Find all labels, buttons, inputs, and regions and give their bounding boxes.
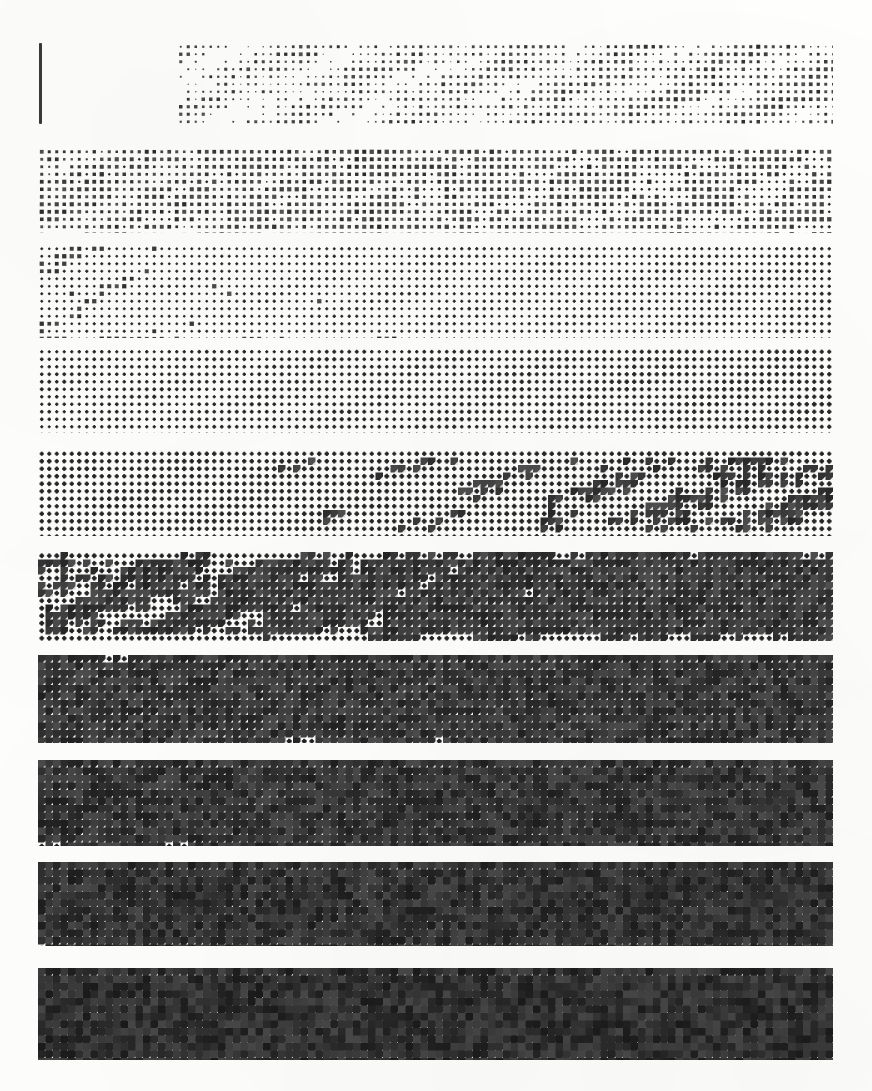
halftone-band-10 [38, 968, 833, 1060]
halftone-band-canvas-6 [38, 552, 833, 641]
halftone-band-canvas-7 [38, 655, 833, 743]
halftone-band-canvas-4 [38, 348, 833, 433]
halftone-band-canvas-5 [38, 450, 833, 536]
halftone-band-canvas-3 [38, 245, 833, 338]
halftone-band-1 [177, 43, 833, 125]
halftone-band-5 [38, 450, 833, 536]
halftone-band-canvas-10 [38, 968, 833, 1060]
halftone-band-4 [38, 348, 833, 433]
halftone-band-7 [38, 655, 833, 743]
halftone-band-canvas-2 [38, 148, 833, 233]
halftone-band-8 [38, 760, 833, 846]
halftone-band-canvas-9 [38, 862, 833, 946]
halftone-band-3 [38, 245, 833, 338]
registration-rule [39, 43, 42, 124]
halftone-band-2 [38, 148, 833, 233]
halftone-band-canvas-8 [38, 760, 833, 846]
halftone-band-9 [38, 862, 833, 946]
halftone-band-6 [38, 552, 833, 641]
test-chart-sheet [0, 0, 872, 1091]
halftone-band-canvas-1 [177, 43, 833, 125]
